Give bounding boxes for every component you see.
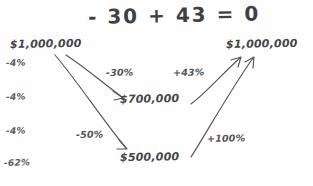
edge-label-start-to-mid: -30% bbox=[106, 67, 134, 78]
node-mid-value: $700,000 bbox=[120, 92, 180, 106]
diagram-title: - 30 + 43 = 0 bbox=[88, 1, 261, 29]
node-start-value: $1,000,000 bbox=[10, 37, 82, 51]
edge-label-low-to-end: +100% bbox=[207, 132, 245, 144]
left-column-pct-4: -62% bbox=[4, 157, 30, 168]
handwritten-diagram-canvas: - 30 + 43 = 0 $1,000,000 $700,000 $500,0… bbox=[0, 0, 313, 186]
edge-label-mid-to-end: +43% bbox=[173, 66, 205, 78]
node-low-value: $500,000 bbox=[120, 150, 180, 164]
left-column-pct-2: -4% bbox=[6, 91, 26, 102]
left-column-pct-3: -4% bbox=[6, 125, 26, 136]
arrow-mid-to-end bbox=[191, 57, 241, 104]
node-end-value: $1,000,000 bbox=[226, 37, 298, 51]
edge-label-start-to-low: -50% bbox=[76, 129, 104, 140]
left-column-pct-1: -4% bbox=[6, 57, 26, 68]
